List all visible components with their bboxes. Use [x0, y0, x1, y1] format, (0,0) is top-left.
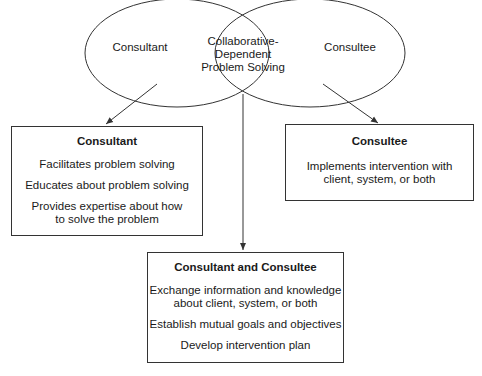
both-box-title: Consultant and Consultee [148, 261, 343, 274]
venn-center-label: Collaborative- Dependent Problem Solving [188, 35, 298, 74]
venn-left-label: Consultant [100, 41, 180, 54]
consultant-item: Provides expertise about how to solve th… [12, 200, 202, 226]
both-item: Establish mutual goals and objectives [148, 318, 343, 331]
consultant-item: Educates about problem solving [12, 179, 202, 192]
both-item: Exchange information and knowledge about… [148, 284, 343, 310]
both-item: Develop intervention plan [148, 339, 343, 352]
venn-right-label: Consultee [310, 41, 390, 54]
consultant-box-title: Consultant [12, 135, 202, 148]
consultant-box: Consultant Facilitates problem solving E… [11, 126, 203, 236]
arrow-to-consultant [106, 84, 157, 124]
consultee-item: Implements intervention with client, sys… [286, 160, 473, 186]
consultee-box-title: Consultee [286, 135, 473, 148]
arrow-to-consultee [323, 84, 378, 123]
consultant-item: Facilitates problem solving [12, 158, 202, 171]
consultant-and-consultee-box: Consultant and Consultee Exchange inform… [147, 252, 344, 363]
consultee-box: Consultee Implements intervention with c… [285, 124, 474, 201]
